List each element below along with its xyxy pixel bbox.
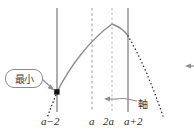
minimum-point-marker bbox=[54, 89, 59, 94]
axis-callout-label: 軸 bbox=[138, 96, 148, 111]
parabola-diagram bbox=[0, 0, 194, 133]
x-tick-label-a-minus-2: a−2 bbox=[41, 116, 59, 127]
x-tick-label-2a: 2a bbox=[103, 116, 114, 127]
minimum-callout-box: 最小 bbox=[5, 69, 43, 88]
x-tick-label-a-plus-2: a+2 bbox=[124, 116, 142, 127]
minimum-callout-label: 最小 bbox=[6, 70, 42, 87]
figure-canvas: 最小 軸 a−2 a 2a a+2 bbox=[0, 0, 194, 133]
axis-callout-leader bbox=[117, 98, 137, 101]
right-edge-pointer-arrowhead bbox=[185, 64, 191, 69]
x-tick-label-a: a bbox=[89, 116, 95, 127]
axis-callout-arrowhead bbox=[104, 96, 110, 101]
